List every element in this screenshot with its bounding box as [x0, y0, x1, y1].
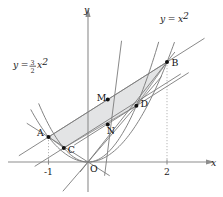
eqn1-exponent: 2 [41, 56, 48, 67]
equation-label-y-equals-x-squared: y=x2 [159, 10, 189, 24]
equation-label-y-equals-three-halves-x-squared: y= 3 2 x2 [12, 56, 48, 75]
svg-text:y=x2: y=x2 [159, 10, 189, 24]
x-tick-label-minus-1: -1 [44, 166, 53, 177]
point-label-n: N [107, 125, 115, 136]
svg-text:2: 2 [30, 67, 34, 75]
point-label-a: A [36, 127, 44, 138]
eqn1-numerator: 3 [30, 59, 34, 67]
parabola-diagram: A B C D M N O -1 2 x y y=x2 y= 3 [0, 0, 223, 197]
tangent-line-at-d [74, 73, 189, 145]
eqn2-exponent: 2 [182, 10, 189, 21]
point-label-d: D [140, 98, 148, 109]
x-tick-label-2: 2 [164, 166, 170, 177]
point-label-b: B [172, 57, 179, 68]
point-c [62, 146, 66, 150]
eqn2-lhs: y [159, 13, 166, 24]
point-d [134, 104, 138, 108]
point-a [47, 135, 51, 139]
eqn1-equals: = [21, 59, 29, 70]
point-label-c: C [68, 144, 75, 155]
figure-container: A B C D M N O -1 2 x y y=x2 y= 3 [0, 0, 223, 197]
x-axis-label: x [211, 157, 217, 168]
point-label-m: M [97, 92, 107, 103]
eqn1-denominator: 2 [30, 67, 34, 75]
svg-text:x2: x2 [37, 56, 48, 70]
eqn2-equals: = [168, 13, 176, 24]
svg-text:3: 3 [30, 59, 34, 67]
eqn1-lhs: y [12, 59, 19, 70]
origin-label: O [90, 163, 98, 174]
point-b [165, 60, 169, 64]
svg-text:y=: y= [12, 59, 28, 70]
y-axis-label: y [83, 4, 90, 15]
